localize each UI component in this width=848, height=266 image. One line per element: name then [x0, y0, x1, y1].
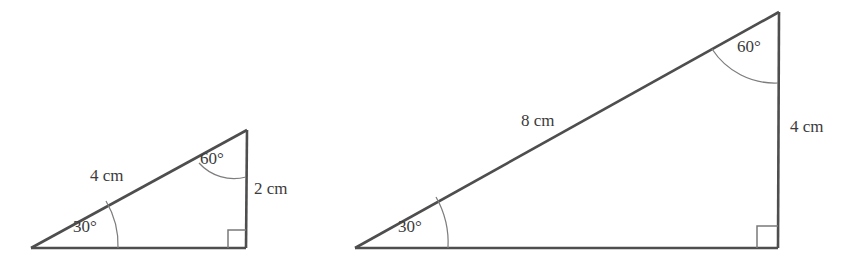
- small-triangle-vertical-side-label: 2 cm: [254, 180, 288, 197]
- large-triangle-hypotenuse: [355, 12, 779, 248]
- geometry-figure: 4 cm 2 cm 60° 30° 8 cm 4 cm 60° 30°: [0, 0, 848, 266]
- large-triangle-hypotenuse-label: 8 cm: [521, 112, 555, 129]
- large-triangle-right-angle-marker: [757, 226, 778, 248]
- large-triangle-angle-label-60: 60°: [737, 38, 761, 55]
- large-triangle-vertical-side: [778, 12, 779, 248]
- small-triangle-hypotenuse: [31, 130, 247, 248]
- large-triangle-group: [355, 12, 779, 248]
- small-triangle-angle-label-30: 30°: [73, 218, 97, 235]
- small-triangle-hypotenuse-label: 4 cm: [90, 167, 124, 184]
- small-triangle-right-angle-marker: [228, 230, 246, 248]
- figure-canvas: [0, 0, 848, 266]
- large-triangle-angle-arc-30: [436, 197, 448, 248]
- small-triangle-group: [31, 130, 247, 248]
- small-triangle-vertical-side: [246, 130, 247, 248]
- small-triangle-angle-arc-30: [106, 201, 118, 248]
- large-triangle-angle-label-30: 30°: [398, 218, 422, 235]
- small-triangle-angle-label-60: 60°: [200, 150, 224, 167]
- large-triangle-vertical-side-label: 4 cm: [790, 118, 824, 135]
